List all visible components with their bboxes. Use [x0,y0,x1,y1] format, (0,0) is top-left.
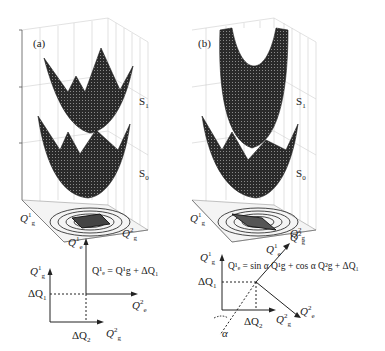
surface-s0-label: S0 [139,168,149,179]
axis-qg2-3d-label: Q2g [122,228,137,239]
axis-qe1-label: Q1e [266,244,281,255]
surface-s1-label: S1 [139,96,149,107]
offset-dq1-label: ΔQ1 [198,276,217,287]
axis-qg1-3d-label: Q1g [20,213,35,224]
axis-qe2-label: Q2e [132,300,147,311]
offset-dq2-label: ΔQ2 [72,330,91,341]
panel-a-tag: (a) [33,38,45,49]
panel-b-tag: (b) [198,38,211,49]
offset-dq2-label: ΔQ2 [244,316,263,327]
axis-qe2-label: Q2e [300,306,315,317]
axis-qg2-rot-label: Q2g [290,232,305,243]
diagram-a [48,238,139,325]
axis-qg1-label: Q1g [30,266,45,277]
axis-qg1-3d-label: Q1g [190,213,205,224]
surface-s1 [44,48,133,133]
axis-qg1-label: Q1g [200,252,215,263]
z-axis [19,30,22,200]
axis-qe1-label: Q1e [68,237,83,248]
panel-b: (b) S1 S0 Q1g Q2g Q2g Q1e Q1g Q¹ₑ = sin … [192,0,384,351]
panel-a: (a) S1 S0 Q1g Q2g Q1e Q1g Q¹ₑ = Q¹g + ΔQ… [0,0,192,351]
offset-dq1-label: ΔQ1 [28,288,47,299]
equation-a: Q¹ₑ = Q¹g + ΔQ₁ [92,266,158,276]
axis-qg2-label: Q2g [106,328,121,339]
equation-b: Q¹ₑ = sin α Q¹g + cos α Q²g + ΔQ₁ [228,262,359,272]
axis-qg2-label: Q2g [276,314,291,325]
surface-s0-label: S0 [296,168,306,179]
surface-s1-label: S1 [296,96,306,107]
panel-b-graphics [192,0,385,351]
angle-alpha-label: α [222,328,228,339]
